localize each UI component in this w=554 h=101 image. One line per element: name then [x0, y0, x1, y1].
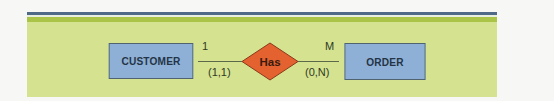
- connector-has-order: [298, 61, 339, 62]
- participation-left: (1,1): [208, 66, 231, 78]
- entity-customer: CUSTOMER: [109, 43, 193, 79]
- participation-right: (0,N): [305, 66, 329, 78]
- relationship-has: Has: [241, 42, 299, 81]
- cardinality-right: M: [325, 40, 334, 52]
- entity-order: ORDER: [345, 43, 426, 80]
- entity-customer-label: CUSTOMER: [121, 55, 180, 67]
- entity-order-label: ORDER: [366, 56, 403, 68]
- connector-customer-has: [198, 61, 242, 62]
- relationship-label: Has: [259, 56, 280, 68]
- cardinality-left: 1: [202, 40, 208, 52]
